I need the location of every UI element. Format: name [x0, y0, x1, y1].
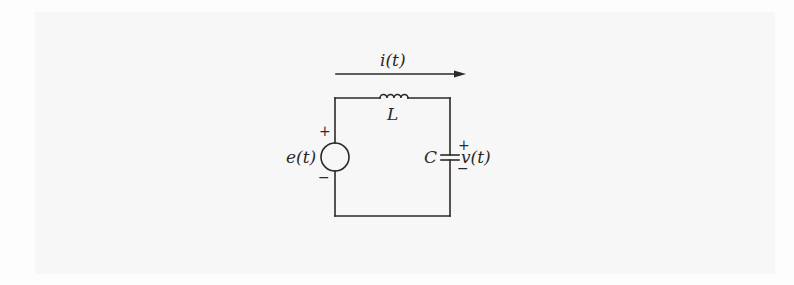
capacitor-label: C — [424, 149, 437, 166]
current-label: i(t) — [380, 52, 406, 69]
source-minus-sign: − — [318, 170, 330, 184]
voltage-source-icon — [321, 143, 349, 171]
inductor-icon — [380, 95, 408, 98]
source-plus-sign: + — [319, 124, 331, 138]
lc-circuit-schematic — [0, 0, 794, 285]
inductor-label: L — [387, 106, 398, 123]
current-arrow-icon — [336, 71, 466, 78]
figure-canvas: i(t) L e(t) + − C + v(t) − — [0, 0, 794, 285]
source-label: e(t) — [286, 149, 316, 166]
capacitor-minus-sign: − — [457, 161, 469, 175]
